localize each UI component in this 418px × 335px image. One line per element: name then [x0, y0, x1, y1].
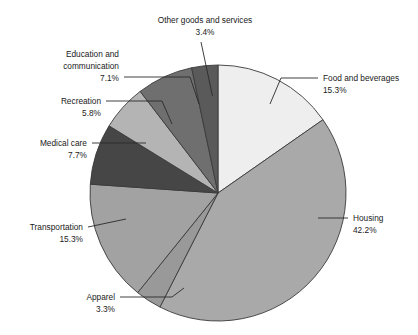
label-housing-value: 42.2% — [353, 225, 377, 235]
label-recreation-title: Recreation — [61, 96, 102, 106]
label-other-goods-value: 3.4% — [196, 27, 216, 37]
label-recreation-value: 5.8% — [82, 108, 102, 118]
label-transportation-title: Transportation — [30, 222, 84, 232]
label-food-value: 15.3% — [323, 85, 347, 95]
label-education-value: 7.1% — [100, 73, 120, 83]
label-medical-title: Medical care — [40, 138, 87, 148]
pie-chart: Other goods and services 3.4% Education … — [0, 0, 418, 335]
label-medical-value: 7.7% — [68, 150, 88, 160]
label-other-goods-title: Other goods and services — [158, 15, 253, 25]
label-education-title-line1: Education and — [66, 49, 119, 59]
label-education-title-line2: communication — [63, 61, 119, 71]
pie-slices-group — [90, 65, 346, 321]
label-housing-title: Housing — [353, 213, 384, 223]
label-apparel-value: 3.3% — [96, 304, 116, 314]
chart-page: Other goods and services 3.4% Education … — [0, 0, 418, 335]
label-food-title: Food and beverages — [323, 73, 399, 83]
label-apparel-title: Apparel — [86, 292, 115, 302]
label-transportation-value: 15.3% — [59, 234, 83, 244]
